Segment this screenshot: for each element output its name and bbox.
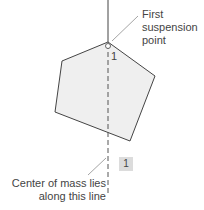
label-line: along this line: [4, 190, 106, 203]
label-line: suspension: [142, 21, 198, 34]
label-line: First: [142, 8, 198, 21]
label-line: Center of mass lies: [4, 177, 106, 190]
suspension-leader: [112, 16, 138, 41]
pentagon-shape: [55, 42, 155, 141]
vertex-number: 1: [111, 50, 117, 63]
center-of-mass-label: Center of mass lies along this line: [4, 177, 106, 203]
suspension-pin: [106, 44, 111, 49]
com-leader: [88, 158, 106, 175]
suspension-label: First suspension point: [142, 8, 198, 47]
label-line: point: [142, 34, 198, 47]
step-badge: 1: [119, 157, 133, 171]
